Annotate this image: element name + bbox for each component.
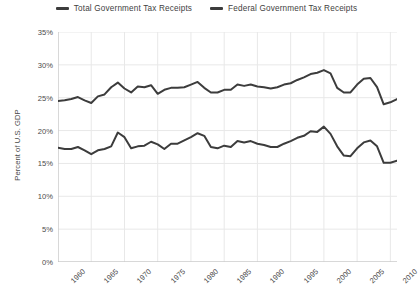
plot-svg [58,32,397,262]
x-tick-label: 2000 [335,267,353,285]
x-tick-label: 1970 [135,267,153,285]
y-tick-label: 30% [38,60,53,69]
legend-label-federal: Federal Government Tax Receipts [228,4,357,13]
x-tick-label: 1995 [302,267,320,285]
x-tick-label: 1960 [69,267,87,285]
x-axis-tick-labels: 1960196519701975198019851990199520002005… [58,262,397,291]
chart-legend: Total Government Tax Receipts Federal Go… [0,4,413,13]
x-tick-label: 1980 [202,267,220,285]
x-tick-label: 2005 [368,267,386,285]
data-series-lines [58,70,397,163]
legend-item-federal: Federal Government Tax Receipts [210,4,357,13]
line-swatch-icon [210,7,223,10]
series-line-total [58,70,397,104]
x-tick-label: 1985 [235,267,253,285]
legend-label-total: Total Government Tax Receipts [74,4,192,13]
x-tick-label: 1975 [169,267,187,285]
y-axis-title: Percent of U.S. GDP [13,45,22,245]
x-tick-label: 1965 [102,267,120,285]
line-swatch-icon [56,7,69,10]
x-tick-label: 1990 [268,267,286,285]
legend-item-total: Total Government Tax Receipts [56,4,192,13]
series-line-federal [58,127,397,163]
y-axis-tick-labels: 0%5%10%15%20%25%30%35% [24,32,53,262]
x-tick-label: 2010 [401,267,419,285]
y-tick-label: 20% [38,126,53,135]
y-tick-label: 15% [38,159,53,168]
y-tick-label: 5% [42,225,53,234]
plot-area [58,32,397,262]
y-tick-label: 10% [38,192,53,201]
y-tick-label: 35% [38,28,53,37]
y-tick-label: 25% [38,93,53,102]
y-tick-label: 0% [42,258,53,267]
